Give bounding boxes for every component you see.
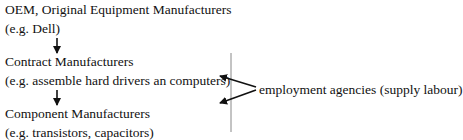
arrow-to-contract-icon — [220, 76, 256, 87]
arrow-to-component-icon — [220, 90, 256, 103]
